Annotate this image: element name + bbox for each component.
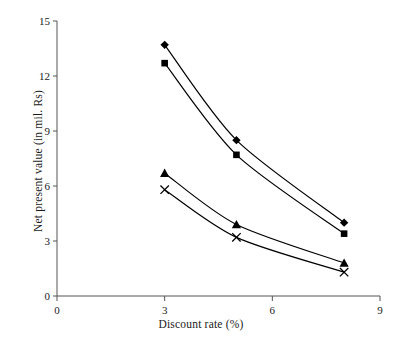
series-line [165, 190, 344, 272]
marker-square [233, 152, 240, 159]
plot-area [0, 0, 402, 343]
x-tick-label: 6 [270, 305, 276, 316]
marker-square [341, 230, 348, 237]
series-line [165, 173, 344, 263]
x-tick-label: 0 [54, 305, 60, 316]
x-tick-label: 9 [377, 305, 383, 316]
data-series-diamond [160, 41, 348, 227]
series-group [160, 41, 349, 277]
series-line [165, 63, 344, 234]
marker-square [161, 60, 168, 67]
x-axis-title: Discount rate (%) [0, 318, 402, 330]
x-tick-label: 3 [162, 305, 168, 316]
y-axis-title: Net present value (in mil. Rs) [32, 61, 44, 261]
data-series-square [161, 60, 347, 237]
chart-container: 03691215 0369 Discount rate (%) Net pres… [0, 0, 402, 343]
marker-triangle [232, 220, 241, 228]
marker-diamond [340, 218, 348, 226]
marker-diamond [160, 41, 168, 49]
y-tick-label: 15 [20, 16, 50, 27]
series-line [165, 45, 344, 223]
data-series-cross [160, 185, 348, 276]
marker-triangle [160, 169, 169, 177]
marker-triangle [340, 258, 349, 266]
y-tick-label: 0 [20, 291, 50, 302]
